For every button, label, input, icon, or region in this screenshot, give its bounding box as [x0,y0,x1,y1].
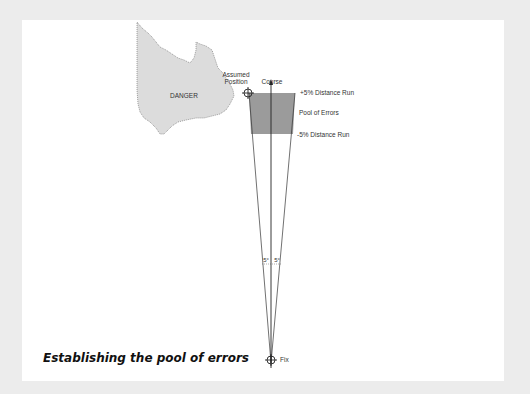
pool-of-errors-diagram: DANGER Assumed Position Course +5% Dista… [0,0,530,394]
assumed-position-label-2: Position [224,78,248,85]
course-label: Course [262,78,283,85]
danger-label: DANGER [170,92,198,99]
danger-area [137,22,234,134]
fix-label: Fix [280,356,289,363]
pool-of-errors-area [249,93,295,134]
angle-left-label: 5° [263,257,269,263]
assumed-position-label-1: Assumed [222,71,249,78]
caption: Establishing the pool of errors [43,351,249,365]
minus-distance-label: -5% Distance Run [297,131,350,138]
angle-right-label: 5° [274,257,280,263]
plus-distance-label: +5% Distance Run [300,89,354,96]
pool-of-errors-label: Pool of Errors [299,109,339,116]
fix-icon [265,354,277,366]
